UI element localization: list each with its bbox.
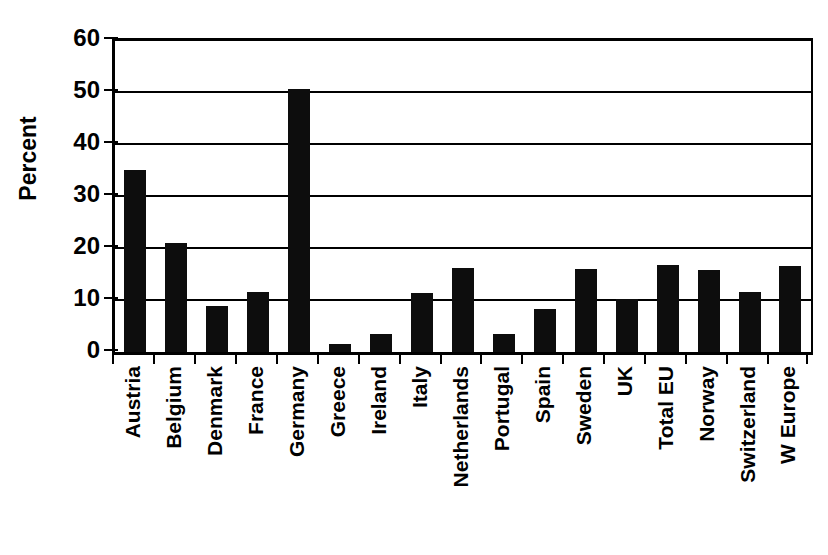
y-axis-tick-label: 50: [42, 78, 100, 102]
bar-slot: [402, 40, 443, 352]
bar-slot: [361, 40, 402, 352]
x-axis-tick-mark: [153, 353, 155, 364]
x-axis-tick-mark: [358, 353, 360, 364]
x-axis-tick-label: Italy: [409, 366, 430, 408]
bar[interactable]: [779, 266, 801, 352]
x-axis-label-slot: UK: [603, 366, 644, 546]
bar-slot: [647, 40, 688, 352]
x-axis-tick-slot: [399, 353, 440, 364]
x-axis-label-slot: Denmark: [194, 366, 235, 546]
bar[interactable]: [534, 309, 556, 352]
x-axis-label-slot: Total EU: [644, 366, 685, 546]
x-axis-tick-mark: [480, 353, 482, 364]
x-axis-tick-label: Austria: [122, 366, 143, 438]
y-axis-tick-label: 30: [42, 182, 100, 206]
x-axis-tick-mark: [276, 353, 278, 364]
bar[interactable]: [124, 170, 146, 352]
x-axis-tick-label: Switzerland: [736, 366, 757, 483]
x-axis-tick-mark: [317, 353, 319, 364]
x-axis-tick-label: Norway: [695, 366, 716, 442]
x-axis-label-slot: Ireland: [358, 366, 399, 546]
x-axis-label-slot: Greece: [317, 366, 358, 546]
bar-slot: [770, 40, 811, 352]
x-axis-tick-mark: [235, 353, 237, 364]
x-axis-tick-slot: [685, 353, 726, 364]
y-axis-tick-label: 10: [42, 286, 100, 310]
x-axis-tick-slot: [358, 353, 399, 364]
x-axis-tick-mark: [726, 353, 728, 364]
x-axis-tick-label: Spain: [531, 366, 552, 423]
x-axis-tick-label: Sweden: [572, 366, 593, 445]
x-axis-tick-slot: [276, 353, 317, 364]
bar[interactable]: [739, 292, 761, 352]
x-axis-label-slot: Sweden: [562, 366, 603, 546]
y-axis-tick-label: 40: [42, 130, 100, 154]
x-axis-tick-mark: [603, 353, 605, 364]
bar-slot: [565, 40, 606, 352]
x-axis-label-slot: Netherlands: [440, 366, 481, 546]
x-axis-tick-slot: [440, 353, 481, 364]
bar-slot: [115, 40, 156, 352]
x-axis-tick-label: Denmark: [204, 366, 225, 456]
bar-slot: [320, 40, 361, 352]
bar[interactable]: [657, 265, 679, 352]
x-axis-tick-slot: [317, 353, 358, 364]
x-axis-tick-label: Total EU: [654, 366, 675, 450]
bar[interactable]: [698, 270, 720, 352]
x-axis-tick-slot: [767, 353, 808, 364]
y-axis-tick-label: 20: [42, 234, 100, 258]
x-axis-label-slot: Norway: [685, 366, 726, 546]
x-axis-tick-mark: [806, 353, 808, 364]
bar[interactable]: [329, 344, 351, 352]
bars-layer: [115, 40, 811, 352]
x-axis-tick-label: Portugal: [490, 366, 511, 451]
x-axis-tick-label: Greece: [327, 366, 348, 437]
y-axis-tick-labels: 0102030405060: [42, 38, 100, 350]
x-axis-tick-slot: [562, 353, 603, 364]
bar[interactable]: [575, 269, 597, 352]
bar-slot: [483, 40, 524, 352]
x-axis-tick-slot: [521, 353, 562, 364]
bar[interactable]: [452, 268, 474, 352]
x-axis-tick-label: Netherlands: [449, 366, 470, 487]
x-axis-tick-mark: [562, 353, 564, 364]
bar[interactable]: [616, 299, 638, 352]
bar[interactable]: [411, 293, 433, 352]
x-axis-label-slot: Spain: [521, 366, 562, 546]
x-axis-tick-marks: [112, 353, 808, 364]
plot-area: [112, 38, 813, 355]
x-axis-tick-mark: [521, 353, 523, 364]
bar-slot: [688, 40, 729, 352]
bar-slot: [606, 40, 647, 352]
bar[interactable]: [370, 334, 392, 352]
bar-slot: [524, 40, 565, 352]
x-axis-label-slot: W Europe: [767, 366, 808, 546]
y-axis-tick-label: 60: [42, 26, 100, 50]
x-axis-tick-label: UK: [613, 366, 634, 396]
bar[interactable]: [206, 306, 228, 352]
bar[interactable]: [288, 89, 310, 352]
bar-chart: Percent 0102030405060 AustriaBelgiumDenm…: [0, 0, 828, 555]
bar[interactable]: [247, 292, 269, 352]
x-axis-tick-label: France: [245, 366, 266, 435]
x-axis-tick-mark: [644, 353, 646, 364]
bar-slot: [156, 40, 197, 352]
x-axis-tick-mark: [767, 353, 769, 364]
x-axis-tick-mark: [685, 353, 687, 364]
x-axis-tick-slot: [603, 353, 644, 364]
bar[interactable]: [493, 334, 515, 352]
bar[interactable]: [165, 243, 187, 352]
x-axis-tick-mark: [112, 353, 114, 364]
bar-slot: [238, 40, 279, 352]
x-axis-tick-mark: [194, 353, 196, 364]
bar-slot: [729, 40, 770, 352]
x-axis-label-slot: Switzerland: [726, 366, 767, 546]
x-axis-label-slot: Portugal: [480, 366, 521, 546]
x-axis-tick-mark: [440, 353, 442, 364]
x-axis-label-slot: Austria: [112, 366, 153, 546]
x-axis-label-slot: Germany: [276, 366, 317, 546]
x-axis-tick-mark: [399, 353, 401, 364]
x-axis-tick-slot: [726, 353, 767, 364]
x-axis-tick-label: Belgium: [163, 366, 184, 449]
x-axis-tick-slot: [153, 353, 194, 364]
